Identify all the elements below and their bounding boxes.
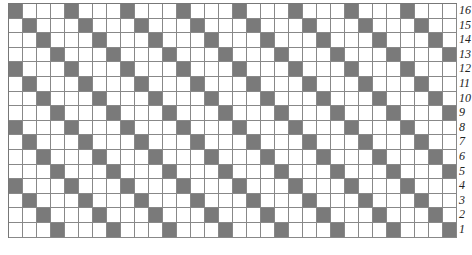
grid-cell-empty (317, 121, 331, 136)
grid-cell-empty (23, 150, 37, 165)
grid-cell-empty (303, 179, 317, 194)
grid-cell-empty (303, 150, 317, 165)
grid-cell-filled (219, 223, 233, 238)
grid-cell-empty (345, 208, 359, 223)
grid-cell-filled (37, 150, 51, 165)
grid-cell-empty (415, 48, 429, 63)
grid-cell-empty (205, 4, 219, 19)
grid-cell-empty (107, 19, 121, 34)
grid-cell-empty (79, 48, 93, 63)
grid-cell-empty (331, 150, 345, 165)
grid-cell-empty (317, 179, 331, 194)
grid-cell-empty (317, 62, 331, 77)
grid-cell-filled (65, 4, 79, 19)
grid-cell-empty (51, 208, 65, 223)
grid-cell-empty (121, 92, 135, 107)
grid-cell-empty (233, 150, 247, 165)
grid-cell-empty (415, 223, 429, 238)
grid-cell-empty (51, 19, 65, 34)
grid-cell-empty (317, 48, 331, 63)
grid-cell-empty (261, 4, 275, 19)
grid-cell-filled (191, 77, 205, 92)
grid-cell-filled (443, 48, 457, 63)
grid-cell-empty (261, 62, 275, 77)
grid-cell-empty (275, 19, 289, 34)
grid-cell-empty (9, 165, 23, 180)
grid-cell-filled (401, 4, 415, 19)
grid-cell-empty (163, 4, 177, 19)
grid-cell-empty (373, 106, 387, 121)
grid-cell-filled (51, 106, 65, 121)
grid-cell-filled (163, 223, 177, 238)
grid-cell-filled (93, 33, 107, 48)
grid-cell-empty (289, 150, 303, 165)
grid-cell-filled (79, 194, 93, 209)
grid-cell-filled (149, 208, 163, 223)
grid-cell-empty (219, 208, 233, 223)
grid-cell-empty (247, 150, 261, 165)
grid-cell-empty (37, 194, 51, 209)
grid-cell-empty (303, 4, 317, 19)
grid-cell-filled (93, 208, 107, 223)
grid-cell-empty (415, 150, 429, 165)
grid-cell-filled (177, 62, 191, 77)
grid-cell-empty (303, 165, 317, 180)
grid-cell-filled (191, 194, 205, 209)
grid-cell-empty (261, 77, 275, 92)
grid-cell-empty (443, 4, 457, 19)
grid-cell-filled (121, 121, 135, 136)
grid-cell-empty (177, 150, 191, 165)
grid-cell-empty (9, 208, 23, 223)
grid-cell-filled (23, 194, 37, 209)
grid-cell-empty (303, 62, 317, 77)
grid-cell-empty (261, 106, 275, 121)
grid-cell-empty (261, 165, 275, 180)
grid-cell-empty (443, 92, 457, 107)
grid-cell-filled (261, 208, 275, 223)
grid-cell-empty (9, 135, 23, 150)
grid-cell-empty (345, 92, 359, 107)
grid-cell-empty (303, 106, 317, 121)
grid-cell-filled (191, 135, 205, 150)
grid-cell-empty (275, 4, 289, 19)
grid-cell-empty (401, 48, 415, 63)
grid-cell-empty (331, 19, 345, 34)
grid-cell-empty (401, 19, 415, 34)
grid-cell-filled (177, 121, 191, 136)
grid-cell-empty (359, 33, 373, 48)
grid-cell-empty (191, 33, 205, 48)
grid-cell-empty (121, 48, 135, 63)
grid-cell-empty (443, 135, 457, 150)
grid-cell-empty (191, 92, 205, 107)
grid-cell-empty (135, 121, 149, 136)
grid-cell-empty (373, 4, 387, 19)
grid-cell-empty (121, 223, 135, 238)
grid-cell-filled (79, 135, 93, 150)
grid-cell-empty (247, 121, 261, 136)
grid-cell-empty (373, 48, 387, 63)
grid-cell-empty (359, 62, 373, 77)
grid-cell-empty (23, 92, 37, 107)
grid-cell-filled (37, 33, 51, 48)
grid-cell-empty (9, 19, 23, 34)
grid-cell-empty (205, 19, 219, 34)
grid-cell-empty (275, 62, 289, 77)
grid-cell-empty (191, 4, 205, 19)
grid-cell-filled (317, 92, 331, 107)
grid-cell-empty (37, 48, 51, 63)
grid-cell-empty (177, 165, 191, 180)
grid-cell-filled (331, 165, 345, 180)
grid-cell-filled (65, 121, 79, 136)
grid-cell-empty (429, 121, 443, 136)
grid-cell-filled (9, 62, 23, 77)
grid-cell-empty (149, 106, 163, 121)
grid-cell-empty (247, 208, 261, 223)
grid-cell-empty (37, 223, 51, 238)
grid-cell-empty (65, 106, 79, 121)
grid-cell-empty (275, 121, 289, 136)
row-label: 15 (459, 18, 471, 33)
grid-cell-empty (401, 150, 415, 165)
grid-cell-filled (303, 19, 317, 34)
grid-cell-empty (93, 165, 107, 180)
grid-cell-empty (359, 165, 373, 180)
